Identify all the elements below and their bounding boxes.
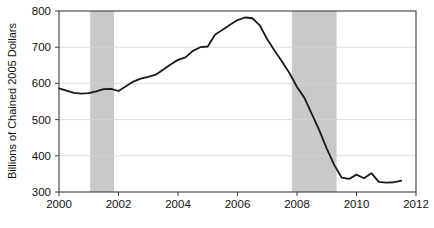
line-chart: Billions of Chained 2005 Dollars 3004005… — [0, 0, 434, 228]
x-axis-ticks: 2000200220042006200820102012 — [46, 192, 429, 210]
x-tick-label-2004: 2004 — [165, 198, 191, 210]
x-tick-label-2006: 2006 — [225, 198, 251, 210]
x-tick-label-2012: 2012 — [403, 198, 429, 210]
x-tick-label-2002: 2002 — [106, 198, 132, 210]
chart-figure: Billions of Chained 2005 Dollars 3004005… — [0, 0, 434, 228]
y-axis-label: Billions of Chained 2005 Dollars — [6, 23, 18, 179]
shaded-band-recession-2008 — [292, 11, 337, 192]
x-tick-label-2000: 2000 — [46, 198, 72, 210]
y-tick-label-800: 800 — [32, 5, 51, 17]
y-axis-ticks: 300400500600700800 — [32, 5, 59, 198]
x-tick-label-2010: 2010 — [344, 198, 370, 210]
y-tick-label-500: 500 — [32, 114, 51, 126]
x-tick-label-2008: 2008 — [284, 198, 310, 210]
y-tick-label-600: 600 — [32, 77, 51, 89]
y-tick-label-700: 700 — [32, 41, 51, 53]
y-tick-label-400: 400 — [32, 150, 51, 162]
shaded-band-recession-2001 — [90, 11, 114, 192]
y-tick-label-300: 300 — [32, 186, 51, 198]
